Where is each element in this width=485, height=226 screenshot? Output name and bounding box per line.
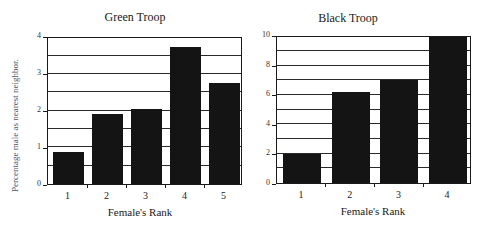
black-troop-chart: Black Troop 0246810 1234 Female's Rank [0,0,485,226]
x-axis-label: Female's Rank [318,205,428,217]
x-tick-label: 1 [291,189,311,200]
chart-title: Black Troop [298,11,398,26]
y-tick-label: 10 [256,31,270,39]
x-tick-mark [374,184,375,187]
plot-area [276,36,471,184]
y-tick-mark [272,184,276,185]
bar-rank-3 [380,80,418,183]
bar-rank-4 [429,37,467,184]
y-tick-label: 6 [256,90,270,98]
y-tick-label: 8 [256,61,270,69]
bar-rank-1 [283,154,321,183]
x-tick-label: 4 [437,189,457,200]
bar-rank-2 [332,92,370,183]
y-tick-mark [272,66,276,67]
x-tick-mark [423,184,424,187]
y-tick-label: 2 [256,149,270,157]
y-tick-mark [272,36,276,37]
x-tick-mark [325,184,326,187]
y-tick-mark [272,95,276,96]
y-tick-mark [272,125,276,126]
x-tick-label: 3 [388,189,408,200]
y-tick-label: 4 [256,120,270,128]
x-tick-label: 2 [340,189,360,200]
y-tick-mark [272,154,276,155]
y-tick-label: 0 [256,179,270,187]
